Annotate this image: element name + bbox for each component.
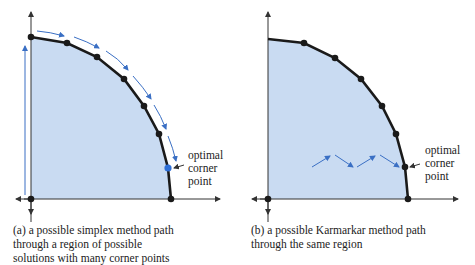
optimal-corner-label-b: optimal corner point <box>425 144 460 183</box>
caption-line: solutions with many corner points <box>13 251 174 265</box>
panel-b-diagram <box>252 12 458 222</box>
caption-b: (b) a possible Karmarkar method path thr… <box>251 223 426 251</box>
optimal-point-a <box>164 164 171 171</box>
annotation-line: optimal <box>425 144 460 157</box>
annotation-line: point <box>425 170 460 183</box>
annotation-line: corner <box>188 162 223 175</box>
caption-line: through the same region <box>251 237 426 251</box>
annotation-line: point <box>188 175 223 188</box>
caption-line: (b) a possible Karmarkar method path <box>251 223 426 237</box>
annotation-line: optimal <box>188 149 223 162</box>
annotation-pointer-a <box>174 165 184 168</box>
feasible-region-b <box>268 39 408 199</box>
annotation-line: corner <box>425 157 460 170</box>
caption-a: (a) a possible simplex method path throu… <box>13 223 174 265</box>
caption-line: through a region of possible <box>13 237 174 251</box>
optimal-corner-label-a: optimal corner point <box>188 149 223 188</box>
annotation-pointer-b <box>410 164 420 167</box>
panel-a-diagram <box>16 12 220 222</box>
caption-line: (a) a possible simplex method path <box>13 223 174 237</box>
